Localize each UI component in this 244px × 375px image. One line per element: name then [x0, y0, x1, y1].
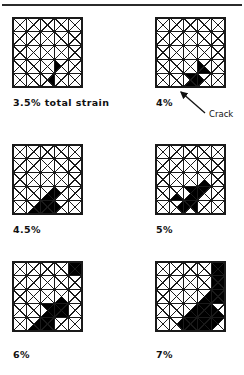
panel-caption-7: 7%: [156, 349, 173, 361]
mesh-diagram: [154, 260, 227, 333]
mesh-panel-6: [11, 260, 84, 333]
panel-caption-5: 5%: [156, 224, 173, 236]
panel-caption-4: 4%: [156, 97, 173, 109]
mesh-diagram: [11, 260, 84, 333]
top-divider-rule: [2, 4, 242, 6]
crack-label: Crack: [209, 109, 233, 119]
crack-arrow-icon: [181, 92, 205, 113]
panel-caption-6: 6%: [13, 349, 30, 361]
mesh-panel-7: [154, 260, 227, 333]
mesh-panel-3p5: [11, 16, 84, 89]
panel-caption-4p5: 4.5%: [13, 224, 41, 236]
mesh-diagram: [11, 16, 84, 89]
mesh-panel-4: [154, 16, 227, 89]
mesh-panel-4p5: [11, 143, 84, 216]
panel-caption-3p5: 3.5% total strain: [13, 97, 109, 109]
figure-root: 3.5% total strain4%4.5%5%6%7% Crack: [0, 0, 244, 375]
mesh-diagram: [11, 143, 84, 216]
mesh-panel-5: [154, 143, 227, 216]
mesh-diagram: [154, 143, 227, 216]
mesh-diagram: [154, 16, 227, 89]
